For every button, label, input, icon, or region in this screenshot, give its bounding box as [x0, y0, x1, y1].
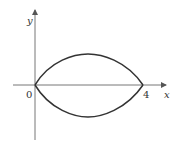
x-axis-label: x	[164, 89, 170, 100]
origin-label: 0	[26, 89, 32, 100]
chart-canvas: y x 0 4	[0, 0, 179, 149]
curve-upper-branch	[35, 54, 143, 85]
curve-lower-branch	[35, 85, 143, 117]
x-tick-label-4: 4	[143, 89, 149, 100]
y-axis-label: y	[26, 15, 33, 26]
